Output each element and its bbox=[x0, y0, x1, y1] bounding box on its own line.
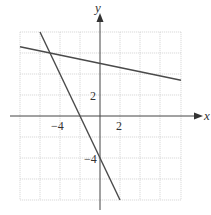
tick-x-2: 2 bbox=[116, 119, 122, 133]
coordinate-plane: x y −4 2 2 −4 bbox=[0, 0, 211, 215]
tick-y-neg4: −4 bbox=[84, 152, 97, 166]
tick-x-neg4: −4 bbox=[51, 119, 64, 133]
axes bbox=[10, 20, 198, 210]
x-axis-label: x bbox=[203, 108, 210, 123]
x-axis-arrow-icon bbox=[194, 113, 203, 120]
tick-y-2: 2 bbox=[90, 89, 96, 103]
y-axis-label: y bbox=[93, 0, 101, 15]
